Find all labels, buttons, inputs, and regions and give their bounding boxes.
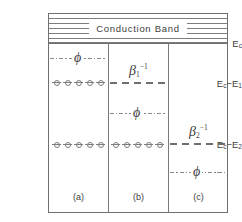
electron-marker	[155, 140, 164, 149]
electron-row-e2-panel-a	[52, 140, 105, 149]
electron-marker	[85, 78, 94, 87]
band-diagram-figure: Conduction Band Ec Ec−E1 Ec−E2 ϕ β1−1 ϕ	[0, 0, 242, 222]
phi-symbol-panel-b: ϕ	[131, 106, 142, 120]
electron-marker	[85, 140, 94, 149]
conduction-band-label: Conduction Band	[89, 23, 186, 34]
electron-marker	[111, 140, 120, 149]
panel-caption-b: (b)	[110, 192, 167, 202]
electron-marker	[96, 78, 105, 87]
panel-divider-a-b	[108, 44, 109, 213]
electron-marker	[52, 140, 61, 149]
phi-symbol-panel-c: ϕ	[191, 165, 202, 179]
electron-marker	[63, 78, 72, 87]
beta-glyph: β	[129, 63, 136, 78]
panel-caption-a: (a)	[50, 192, 107, 202]
axis-label-e1-tail-sub: 1	[238, 82, 242, 89]
axis-label-ec-e1: Ec−E1	[196, 78, 242, 89]
electron-row-e1-panel-a	[52, 78, 105, 87]
beta1-symbol-panel-b: β1−1	[127, 63, 150, 78]
axis-label-ec: Ec	[196, 38, 242, 49]
beta-glyph: β	[189, 124, 196, 139]
panel-caption-c: (c)	[170, 192, 227, 202]
beta1-line-panel-b	[110, 82, 166, 84]
electron-marker	[122, 140, 131, 149]
electron-marker	[63, 140, 72, 149]
axis-label-ec-sub: c	[239, 42, 242, 49]
electron-marker	[96, 140, 105, 149]
electron-marker	[144, 140, 153, 149]
axis-label-e2-tail-sub: 2	[238, 143, 242, 150]
panel-divider-b-c	[168, 44, 169, 213]
electron-marker	[74, 78, 83, 87]
electron-row-e2-panel-b	[111, 140, 164, 149]
electron-marker	[74, 140, 83, 149]
beta2-symbol-panel-c: β2−1	[187, 124, 210, 139]
beta-subscript: 2	[196, 131, 200, 140]
beta2-line-panel-c	[170, 143, 226, 145]
beta-subscript: 1	[136, 70, 140, 79]
beta-superscript: −1	[200, 123, 208, 132]
beta-superscript: −1	[140, 62, 148, 71]
phi-symbol-panel-a: ϕ	[72, 51, 83, 65]
electron-marker	[52, 78, 61, 87]
electron-marker	[133, 140, 142, 149]
